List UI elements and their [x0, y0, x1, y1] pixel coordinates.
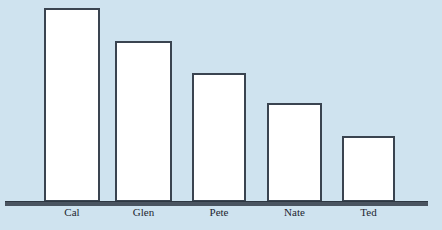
bar-nate: [267, 103, 322, 202]
x-tick-label-pete: Pete: [192, 205, 246, 219]
x-tick-label-glen: Glen: [115, 205, 172, 219]
bar-cal: [44, 8, 100, 202]
plot-area: Cal Glen Pete Nate Ted: [0, 0, 442, 230]
bar-chart: Cal Glen Pete Nate Ted: [0, 0, 442, 230]
bar-ted: [342, 136, 395, 202]
bar-pete: [192, 73, 246, 202]
x-tick-label-cal: Cal: [44, 205, 100, 219]
bar-glen: [115, 41, 172, 202]
x-tick-label-nate: Nate: [267, 205, 322, 219]
x-tick-label-ted: Ted: [342, 205, 395, 219]
